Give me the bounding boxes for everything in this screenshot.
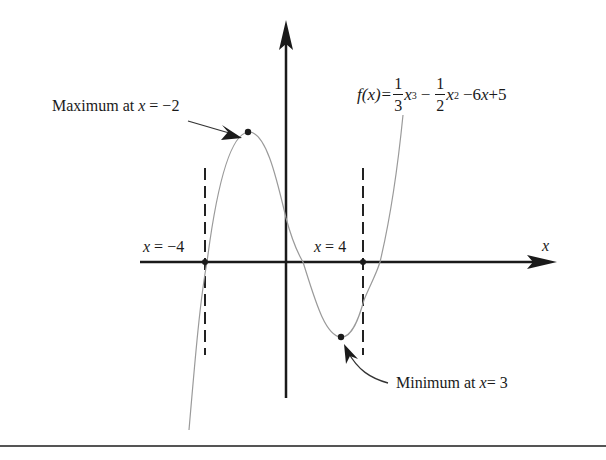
minimum-label-var: x (480, 374, 487, 391)
intersection-point-right (360, 259, 366, 265)
formula-fraction-2: 1 2 (435, 76, 445, 114)
vline-right-value: = 4 (321, 238, 346, 255)
fraction-2-numerator: 1 (435, 76, 445, 95)
minimum-point (338, 334, 344, 340)
function-curve (189, 115, 403, 430)
formula-rest-tail: +5 (489, 85, 507, 105)
maximum-label-value: = −2 (145, 97, 179, 114)
function-graph-figure: f (x) = 1 3 x3 − 1 2 x2 −6x+5 Maximum at… (0, 0, 606, 460)
maximum-arrowhead-icon (221, 125, 242, 140)
minimum-label: Minimum at x= 3 (396, 375, 508, 391)
formula-arg: (x) (362, 85, 381, 105)
vline-right-label: x = 4 (314, 239, 346, 255)
formula-rest-op: −6 (463, 85, 481, 105)
graph-canvas (0, 0, 606, 460)
formula-term2-var: x (446, 85, 454, 105)
maximum-point (245, 129, 251, 135)
formula-term1-var: x (404, 85, 412, 105)
formula-term1-exp: 3 (412, 90, 417, 101)
maximum-label-text: Maximum at (52, 97, 138, 114)
formula-term2-exp: 2 (454, 90, 459, 101)
minimum-arrowhead-icon (344, 344, 358, 364)
formula-rest-var: x (481, 85, 489, 105)
formula-equals: = (382, 85, 392, 105)
formula-fraction-1: 1 3 (393, 76, 403, 114)
vline-left-value: = −4 (150, 238, 184, 255)
fraction-1-denominator: 3 (394, 95, 402, 114)
minimum-label-value: = 3 (487, 374, 508, 391)
function-formula-label: f (x) = 1 3 x3 − 1 2 x2 −6x+5 (357, 70, 507, 120)
formula-op1: − (421, 85, 431, 105)
bottom-divider (0, 445, 606, 447)
x-axis-label: x (542, 238, 549, 254)
maximum-label: Maximum at x = −2 (52, 98, 179, 114)
intersection-point-left (202, 259, 208, 265)
vline-left-label: x = −4 (143, 239, 184, 255)
fraction-1-numerator: 1 (393, 76, 403, 95)
fraction-2-denominator: 2 (436, 95, 444, 114)
minimum-label-text: Minimum at (396, 374, 480, 391)
